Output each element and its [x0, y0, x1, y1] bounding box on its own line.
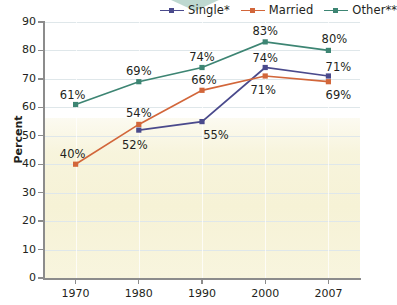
legend-swatch-icon: [241, 6, 265, 15]
x-tick: [328, 279, 329, 284]
y-tick: [38, 21, 43, 22]
legend-label: Other**: [352, 3, 397, 17]
data-label: 52%: [122, 138, 148, 152]
data-label: 71%: [250, 83, 276, 97]
y-tick-label: 10: [10, 243, 36, 256]
series-marker-1: [199, 88, 204, 93]
y-tick: [38, 50, 43, 51]
series-marker-0: [263, 65, 268, 70]
data-label: 74%: [252, 51, 278, 65]
y-tick: [38, 249, 43, 250]
x-tick-label: 1970: [46, 287, 106, 300]
x-tick: [75, 279, 76, 284]
legend-swatch-icon: [160, 6, 184, 15]
data-label: 54%: [126, 106, 152, 120]
data-label: 69%: [326, 88, 352, 102]
series-marker-0: [136, 128, 141, 133]
x-tick-label: 2007: [298, 287, 358, 300]
series-marker-2: [263, 39, 268, 44]
legend-label: Single*: [188, 3, 230, 17]
series-marker-1: [136, 122, 141, 127]
data-label: 40%: [60, 147, 86, 161]
y-tick: [38, 135, 43, 136]
data-label: 74%: [189, 50, 215, 64]
legend-item-0[interactable]: Single*: [160, 3, 230, 17]
x-tick: [138, 279, 139, 284]
data-label: 71%: [326, 60, 352, 74]
x-tick-label: 1980: [109, 287, 169, 300]
legend-item-1[interactable]: Married: [241, 3, 314, 17]
y-tick-label: 20: [10, 214, 36, 227]
y-tick-label: 80: [10, 43, 36, 56]
y-tick-label: 0: [10, 271, 36, 284]
x-tick-label: 2000: [235, 287, 295, 300]
series-marker-1: [263, 73, 268, 78]
y-tick: [38, 192, 43, 193]
series-marker-2: [136, 79, 141, 84]
data-label: 80%: [322, 32, 348, 46]
y-tick: [38, 220, 43, 221]
x-tick: [265, 279, 266, 284]
x-tick-label: 1990: [172, 287, 232, 300]
chart-legend: Single*MarriedOther**: [160, 1, 397, 19]
legend-swatch-icon: [324, 6, 348, 15]
y-axis-title: Percent: [12, 105, 25, 175]
y-tick: [38, 164, 43, 165]
x-tick: [201, 279, 202, 284]
data-label: 83%: [252, 24, 278, 38]
y-tick: [38, 277, 43, 278]
series-marker-2: [73, 102, 78, 107]
y-tick-label: 70: [10, 72, 36, 85]
data-label: 69%: [126, 64, 152, 78]
legend-label: Married: [269, 3, 314, 17]
y-tick: [38, 78, 43, 79]
series-marker-0: [326, 73, 331, 78]
series-marker-0: [199, 119, 204, 124]
y-tick: [38, 107, 43, 108]
y-axis-line: [43, 21, 45, 279]
series-marker-2: [199, 65, 204, 70]
series-marker-1: [326, 79, 331, 84]
series-marker-2: [326, 48, 331, 53]
y-tick-label: 30: [10, 186, 36, 199]
data-label: 61%: [60, 88, 86, 102]
data-label: 66%: [191, 73, 217, 87]
series-marker-1: [73, 162, 78, 167]
y-tick-label: 90: [10, 15, 36, 28]
data-label: 55%: [203, 128, 229, 142]
series-line-0: [139, 68, 329, 131]
legend-item-2[interactable]: Other**: [324, 3, 397, 17]
